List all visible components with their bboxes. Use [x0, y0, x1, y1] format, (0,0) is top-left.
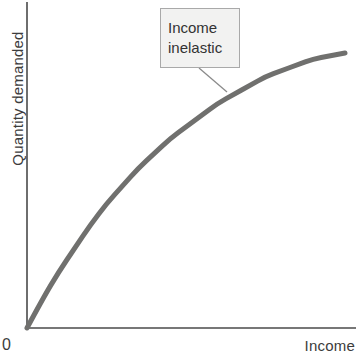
y-axis-label: Quantity demanded [9, 19, 26, 179]
callout-line-2: inelastic [168, 38, 222, 58]
origin-label: 0 [2, 336, 11, 354]
demand-curve [27, 53, 345, 328]
callout-box: Income inelastic [160, 8, 240, 68]
callout-line-1: Income [168, 18, 217, 38]
callout-leader-line [199, 68, 227, 92]
x-axis-label: Income [305, 337, 355, 354]
chart-figure: Income inelastic Quantity demanded Incom… [0, 0, 361, 356]
